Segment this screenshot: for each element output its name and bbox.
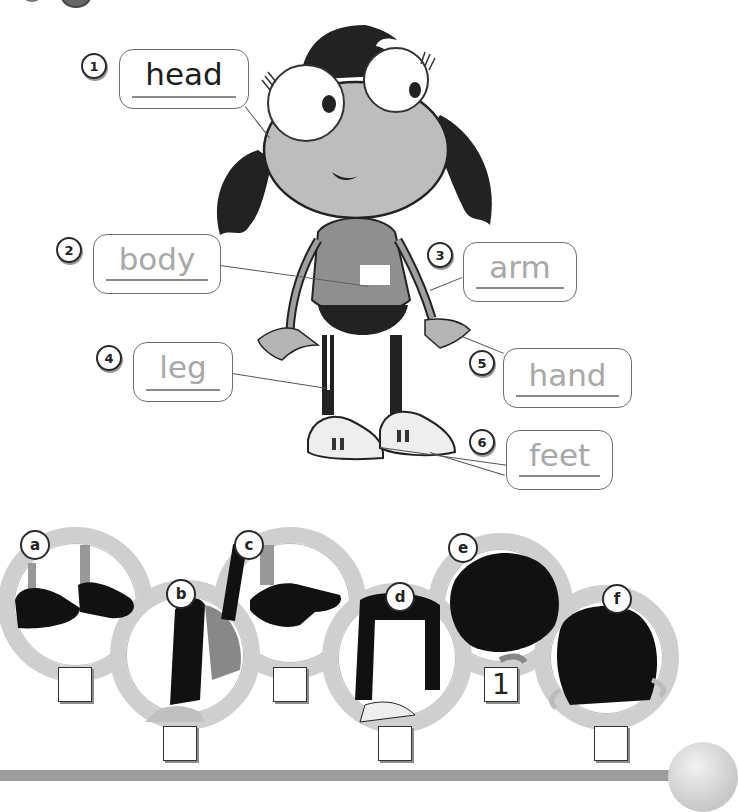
page-footer-bar: [0, 770, 702, 781]
answer-box-f[interactable]: [594, 726, 628, 761]
writing-line: [516, 395, 619, 397]
label-box-hand[interactable]: hand: [503, 348, 632, 408]
label-word-hand: hand: [504, 357, 631, 393]
answer-box-b[interactable]: [163, 726, 197, 761]
answer-box-c[interactable]: [273, 667, 307, 702]
label-number-5: 5: [469, 350, 495, 376]
writing-line: [519, 475, 600, 477]
label-number-4: 4: [96, 345, 122, 371]
label-word-body: body: [94, 241, 220, 277]
label-number-3: 3: [427, 242, 453, 268]
top-corner-icon-right: [60, 0, 92, 8]
picture-letter-d: d: [385, 582, 415, 612]
label-word-arm: arm: [464, 249, 576, 285]
picture-letter-e: e: [448, 533, 478, 563]
picture-letter-b: b: [166, 579, 196, 609]
label-word-feet: feet: [507, 437, 612, 473]
page-corner-decoration: [668, 742, 738, 812]
label-number-2: 2: [56, 237, 82, 263]
label-word-head: head: [120, 56, 248, 92]
answer-box-d[interactable]: [378, 726, 412, 761]
label-box-leg[interactable]: leg: [133, 342, 233, 402]
writing-line: [132, 96, 236, 98]
answer-box-e[interactable]: 1: [484, 667, 518, 702]
picture-letter-a: a: [20, 530, 50, 560]
writing-line: [146, 389, 220, 391]
writing-line: [106, 279, 208, 281]
label-box-feet[interactable]: feet: [506, 430, 613, 490]
picture-letter-c: c: [234, 530, 264, 560]
label-box-arm[interactable]: arm: [463, 242, 577, 302]
label-box-body[interactable]: body: [93, 234, 221, 294]
answer-box-a[interactable]: [58, 667, 92, 702]
top-corner-icon-left: [22, 0, 42, 2]
label-number-1: 1: [81, 53, 107, 79]
label-number-6: 6: [469, 429, 495, 455]
picture-letter-f: f: [602, 584, 632, 614]
label-box-head[interactable]: head: [119, 49, 249, 109]
writing-line: [476, 287, 564, 289]
label-word-leg: leg: [134, 349, 232, 385]
